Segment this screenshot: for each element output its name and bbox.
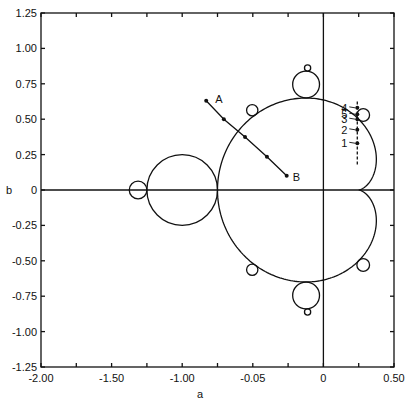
- y-tick-label: -1.25: [12, 361, 37, 373]
- pointer-line: [349, 142, 355, 143]
- numbered-label: 1: [341, 137, 347, 149]
- numbered-label: 2: [341, 124, 347, 136]
- pointer-line: [349, 113, 355, 114]
- x-tick-label: 0.50: [383, 372, 404, 384]
- bulb-circle: [304, 65, 310, 71]
- x-tick-label: -0.05: [240, 372, 265, 384]
- y-tick-label: 1.25: [16, 7, 37, 19]
- path-ab-point: [204, 99, 208, 103]
- y-tick-label: -0.25: [12, 219, 37, 231]
- numbered-point: [355, 128, 359, 132]
- path-a-b: AB: [204, 93, 300, 183]
- y-tick-label: 1.00: [16, 42, 37, 54]
- bulb-circle: [293, 282, 320, 309]
- x-axis-title: a: [197, 388, 204, 400]
- label-a: A: [215, 93, 223, 105]
- y-tick-label: 0: [31, 184, 37, 196]
- numbered-label: 4: [341, 102, 347, 114]
- pointer-line: [349, 107, 355, 108]
- y-tick-label: -1.00: [12, 326, 37, 338]
- bulb-circle: [304, 309, 310, 315]
- bulb-circle: [247, 264, 258, 275]
- numbered-point: [355, 106, 359, 110]
- pointer-line: [349, 118, 355, 119]
- bulb-circle: [247, 105, 258, 116]
- bulb-circle: [293, 71, 320, 98]
- y-axis-title: b: [6, 184, 12, 196]
- path-ab-point: [265, 155, 269, 159]
- y-tick-label: 0.50: [16, 113, 37, 125]
- path-numbered: 12354: [341, 99, 359, 164]
- pointer-line: [349, 129, 355, 130]
- x-tick-label: -1.00: [170, 372, 195, 384]
- numbered-point: [355, 141, 359, 145]
- label-b: B: [293, 171, 300, 183]
- path-ab-point: [285, 174, 289, 178]
- y-tick-label: 0.75: [16, 78, 37, 90]
- x-tick-label: 0: [320, 372, 326, 384]
- numbered-point: [355, 112, 359, 116]
- numbered-point: [355, 117, 359, 121]
- x-tick-label: -2.00: [28, 372, 53, 384]
- mandelbrot-figure: -2.00-1.50-1.00-0.0500.50 1.251.000.750.…: [0, 0, 412, 403]
- path-ab-point: [243, 135, 247, 139]
- bulb-circle: [357, 259, 370, 272]
- path-ab-point: [222, 117, 226, 121]
- y-tick-label: -0.75: [12, 290, 37, 302]
- y-tick-label: -0.50: [12, 255, 37, 267]
- x-tick-label: -1.50: [99, 372, 124, 384]
- y-tick-label: 0.25: [16, 149, 37, 161]
